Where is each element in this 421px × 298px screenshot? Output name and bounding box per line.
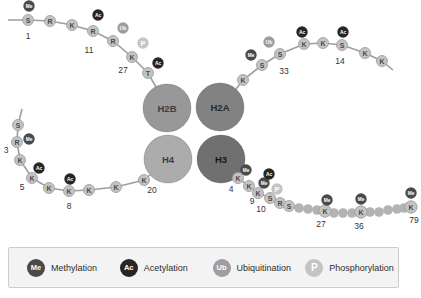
legend-label-phosphorylation: Phosphorylation (329, 263, 394, 273)
legend-label-methylation: Methylation (51, 263, 97, 273)
residue-letter: K (301, 41, 306, 48)
residue-letter: K (255, 190, 260, 197)
residue-letter: K (358, 209, 363, 216)
position-number: 14 (335, 56, 345, 66)
position-number: 27 (118, 65, 128, 75)
mark-symbol: P (274, 185, 279, 194)
mark-symbol: Me (408, 191, 415, 196)
linker-bead (303, 204, 313, 214)
legend-item-methylation: Me Methylation (27, 259, 120, 277)
residue-letter: K (408, 204, 413, 211)
linker-bead (338, 208, 348, 218)
histone-h4-label: H4 (162, 154, 175, 165)
residue-letter: K (362, 50, 367, 57)
histone-h2b-label: H2B (157, 103, 176, 114)
position-number: 5 (20, 182, 25, 192)
residue-letter: K (240, 77, 245, 84)
residue-letter: S (287, 203, 292, 210)
position-number: 10 (256, 204, 266, 214)
residue-letter: R (277, 200, 282, 207)
residue-letter: R (90, 28, 95, 35)
mark-symbol: Ub (120, 26, 126, 31)
residue-letter: S (260, 62, 265, 69)
legend-item-phosphorylation: P Phosphorylation (305, 259, 398, 277)
residue-letter: K (322, 208, 327, 215)
nucleosome-diagram-canvas: H2BH2AH4H3SRKRRKTMeAcUbPAc11127KSSKKSKKM… (0, 0, 421, 245)
legend: Me Methylation Ac Acetylation Ub Ubiquit… (8, 247, 399, 288)
mark-symbol: Ac (299, 30, 305, 35)
mark-symbol: Ac (155, 61, 161, 66)
residue-letter: S (16, 122, 21, 129)
mark-symbol: Me (26, 4, 33, 9)
mark-symbol: Ac (266, 172, 272, 177)
mark-symbol: Ac (340, 30, 346, 35)
mark-symbol: P (140, 39, 145, 48)
methylation-icon: Me (27, 259, 45, 277)
mark-symbol: Me (243, 168, 250, 173)
mark-symbol: Me (248, 53, 255, 58)
residue-letter: K (17, 157, 22, 164)
linker-bead (383, 205, 393, 215)
position-number: 33 (279, 66, 289, 76)
mark-symbol: Ac (95, 13, 101, 18)
residue-letter: R (47, 18, 52, 25)
linker-bead (294, 203, 304, 213)
mark-symbol: Me (358, 197, 365, 202)
residue-letter: S (26, 17, 31, 24)
mark-symbol: Ac (36, 166, 42, 171)
residue-letter: R (110, 38, 115, 45)
position-number: 3 (4, 145, 9, 155)
residue-letter: K (129, 54, 134, 61)
histone-h3-label: H3 (215, 154, 227, 165)
residue-letter: R (14, 139, 19, 146)
residue-letter: K (235, 175, 240, 182)
residue-letter: K (66, 188, 71, 195)
residue-letter: K (29, 175, 34, 182)
legend-label-acetylation: Acetylation (144, 263, 188, 273)
residue-letter: S (340, 42, 345, 49)
position-number: 9 (250, 196, 255, 206)
acetylation-icon: Ac (120, 259, 138, 277)
mark-symbol: Me (26, 137, 33, 142)
legend-label-ubiquitination: Ubiquitination (237, 263, 292, 273)
legend-item-acetylation: Ac Acetylation (120, 259, 213, 277)
residue-letter: K (69, 22, 74, 29)
position-number: 36 (354, 221, 364, 231)
histone-h2a-label: H2A (210, 102, 229, 113)
phosphorylation-icon: P (305, 259, 323, 277)
residue-letter: K (46, 185, 51, 192)
legend-item-ubiquitination: Ub Ubiquitination (213, 259, 306, 277)
mark-symbol: Me (324, 198, 331, 203)
mark-symbol: Ac (67, 177, 73, 182)
position-number: 27 (316, 219, 326, 229)
residue-letter: K (141, 177, 146, 184)
mark-symbol: Me (261, 181, 268, 186)
position-number: 8 (67, 201, 72, 211)
residue-letter: K (246, 183, 251, 190)
position-number: 1 (26, 31, 31, 41)
residue-letter: S (268, 195, 273, 202)
residue-letter: T (146, 70, 151, 77)
position-number: 4 (229, 184, 234, 194)
residue-letter: K (320, 40, 325, 47)
ubiquitination-icon: Ub (213, 259, 231, 277)
position-number: 11 (85, 45, 94, 55)
residue-letter: K (379, 58, 384, 65)
residue-letter: K (86, 187, 91, 194)
mark-symbol: Ub (266, 40, 272, 45)
linker-bead (374, 207, 384, 217)
position-number: 79 (409, 215, 419, 225)
residue-letter: K (113, 184, 118, 191)
position-number: 20 (147, 185, 157, 195)
histone-modification-diagram: H2BH2AH4H3SRKRRKTMeAcUbPAc11127KSSKKSKKM… (0, 0, 421, 298)
residue-letter: S (278, 51, 283, 58)
